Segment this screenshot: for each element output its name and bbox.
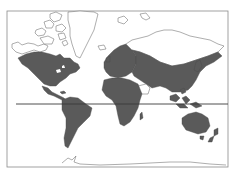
tasmania-land [200,136,204,140]
greenland-outline [68,11,98,58]
antarctica-outline [62,156,226,165]
franz-josef-land-outline [140,13,150,20]
australia-land [182,112,210,134]
new-zealand-south-land [208,136,214,142]
madagascar-land [140,112,143,120]
iceland-outline [98,45,106,50]
south-america-land [62,97,92,148]
north-america-land [18,52,80,86]
new-zealand-land [214,128,218,136]
world-map: mercator [0,0,232,172]
africa-land [102,78,142,126]
british-isles-land [106,56,110,62]
map-canvas [0,0,232,172]
arctic-canada-outline [12,12,68,54]
svalbard-outline [118,16,128,24]
caribbean-islands-land [60,91,66,94]
